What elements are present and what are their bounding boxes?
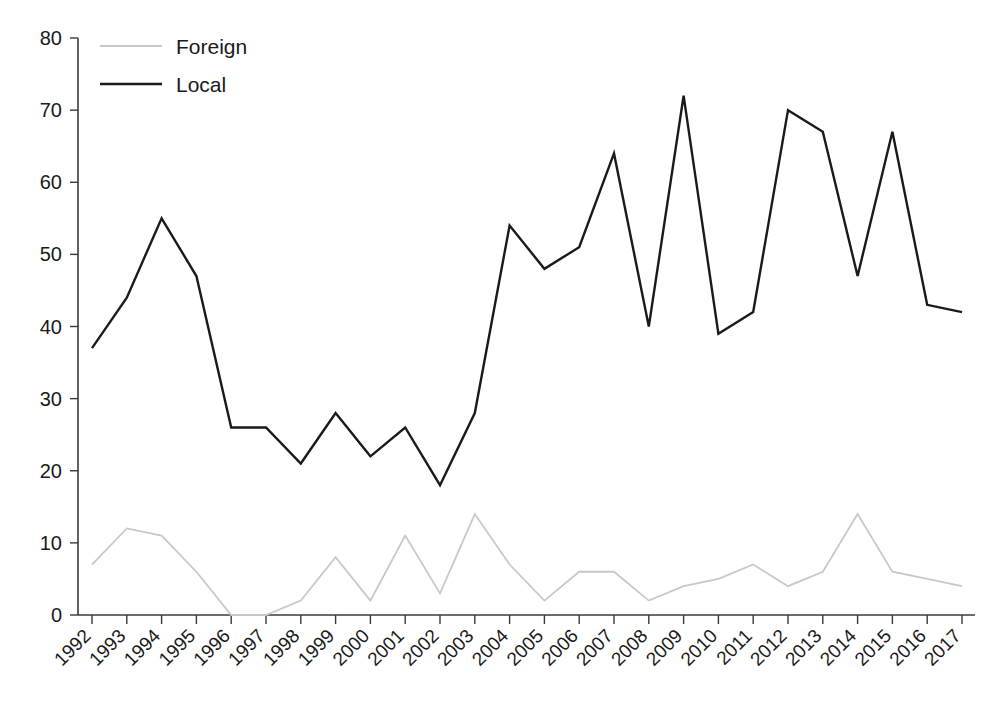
series-line-local xyxy=(92,96,962,485)
x-tick-label: 2008 xyxy=(607,625,652,670)
x-tick-label: 1996 xyxy=(189,625,234,670)
x-tick-label: 2006 xyxy=(537,625,582,670)
x-axis: 1992199319941995199619971998199920002001… xyxy=(50,615,975,670)
x-tick-label: 2000 xyxy=(328,625,373,670)
y-tick-label: 10 xyxy=(40,532,62,554)
y-axis-tick-labels: 01020304050607080 xyxy=(40,27,62,626)
x-tick-label: 2005 xyxy=(502,625,547,670)
data-series-group xyxy=(92,96,962,615)
y-tick-label: 80 xyxy=(40,27,62,49)
x-tick-label: 2010 xyxy=(676,625,721,670)
x-tick-label: 2014 xyxy=(816,625,861,670)
x-tick-label: 2003 xyxy=(433,625,478,670)
line-chart: 01020304050607080 1992199319941995199619… xyxy=(0,0,995,704)
x-tick-label: 2017 xyxy=(920,625,965,670)
y-tick-label: 60 xyxy=(40,171,62,193)
x-tick-label: 1992 xyxy=(50,625,95,670)
y-tick-label: 40 xyxy=(40,316,62,338)
chart-legend: ForeignLocal xyxy=(100,35,247,96)
x-tick-label: 2007 xyxy=(572,625,617,670)
x-tick-label: 1995 xyxy=(154,625,199,670)
x-tick-label: 1997 xyxy=(224,625,269,670)
x-tick-label: 2001 xyxy=(363,625,408,670)
x-tick-label: 1993 xyxy=(85,625,130,670)
series-line-foreign xyxy=(92,514,962,615)
x-tick-label: 2004 xyxy=(468,625,513,670)
x-tick-label: 2015 xyxy=(850,625,895,670)
x-tick-label: 2002 xyxy=(398,625,443,670)
x-tick-label: 1998 xyxy=(259,625,304,670)
x-tick-label: 1999 xyxy=(294,625,339,670)
legend-label-foreign: Foreign xyxy=(176,35,247,58)
x-tick-label: 2012 xyxy=(746,625,791,670)
x-tick-label: 2016 xyxy=(885,625,930,670)
y-axis-ticks xyxy=(70,38,78,615)
y-axis: 01020304050607080 xyxy=(40,27,78,626)
y-tick-label: 0 xyxy=(51,604,62,626)
x-tick-label: 2011 xyxy=(712,625,756,669)
x-axis-tick-labels: 1992199319941995199619971998199920002001… xyxy=(50,625,965,670)
x-tick-label: 2009 xyxy=(642,625,687,670)
y-tick-label: 20 xyxy=(40,460,62,482)
x-axis-ticks xyxy=(92,615,962,624)
y-tick-label: 70 xyxy=(40,99,62,121)
legend-label-local: Local xyxy=(176,73,226,96)
y-tick-label: 50 xyxy=(40,243,62,265)
x-tick-label: 1994 xyxy=(120,625,165,670)
x-tick-label: 2013 xyxy=(781,625,826,670)
y-tick-label: 30 xyxy=(40,388,62,410)
chart-canvas: 01020304050607080 1992199319941995199619… xyxy=(0,0,995,704)
